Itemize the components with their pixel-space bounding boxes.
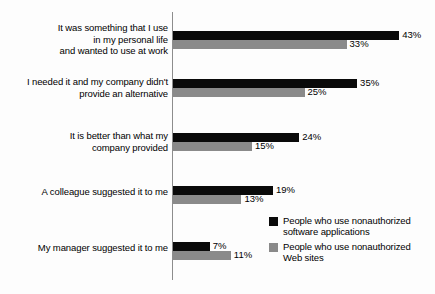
bar-value-label: 43% xyxy=(402,30,421,40)
bar xyxy=(173,40,347,49)
category-label: My manager suggested it to me xyxy=(0,242,168,254)
bar-value-label: 19% xyxy=(276,185,295,195)
legend-label: People who use nonauthorizedsoftware app… xyxy=(283,216,433,237)
bar-value-label: 24% xyxy=(302,132,321,142)
bar-value-label: 13% xyxy=(244,194,263,204)
legend-label: People who use nonauthorizedWeb sites xyxy=(283,242,433,263)
bar-value-label: 15% xyxy=(255,141,274,151)
bar xyxy=(173,79,357,88)
category-label-line: It is better than what my xyxy=(0,130,168,142)
bar xyxy=(173,88,305,97)
category-label: It is better than what mycompany provide… xyxy=(0,130,168,153)
legend-label-line: software applications xyxy=(283,227,433,238)
category-label: I needed it and my company didn'tprovide… xyxy=(0,76,168,99)
legend-label-line: Web sites xyxy=(283,253,433,264)
legend-swatch-icon xyxy=(269,243,278,252)
bar xyxy=(173,195,241,204)
bar xyxy=(173,242,210,251)
bar-value-label: 25% xyxy=(308,87,327,97)
category-label-line: company provided xyxy=(0,142,168,154)
bar-value-label: 35% xyxy=(360,78,379,88)
category-label-line: It was something that I use xyxy=(0,22,168,34)
category-label-line: I needed it and my company didn't xyxy=(0,76,168,88)
category-label-line: in my personal life xyxy=(0,34,168,46)
category-label-line: A colleague suggested it to me xyxy=(0,186,168,198)
legend-label-line: People who use nonauthorized xyxy=(283,242,433,253)
bar-value-label: 11% xyxy=(234,250,252,260)
bar xyxy=(173,142,252,151)
category-label: It was something that I usein my persona… xyxy=(0,22,168,57)
category-label: A colleague suggested it to me xyxy=(0,186,168,198)
bar-value-label: 33% xyxy=(350,39,369,49)
category-label-line: My manager suggested it to me xyxy=(0,242,168,254)
legend-swatch-icon xyxy=(269,217,278,226)
chart-legend: People who use nonauthorizedsoftware app… xyxy=(269,216,433,268)
bar-value-label: 7% xyxy=(213,241,227,251)
legend-label-line: People who use nonauthorized xyxy=(283,216,433,227)
legend-item: People who use nonauthorizedsoftware app… xyxy=(269,216,433,237)
bar xyxy=(173,251,231,260)
bar xyxy=(173,133,299,142)
category-label-line: provide an alternative xyxy=(0,88,168,100)
bar-chart: It was something that I usein my persona… xyxy=(0,0,435,294)
category-label-line: and wanted to use at work xyxy=(0,45,168,57)
legend-item: People who use nonauthorizedWeb sites xyxy=(269,242,433,263)
